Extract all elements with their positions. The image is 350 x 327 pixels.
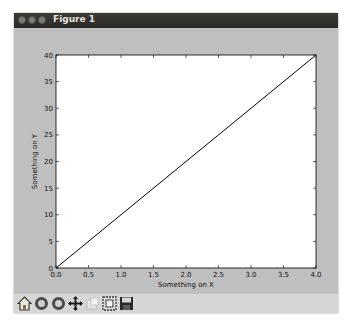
x-tick-label: 2.5 [213,271,224,279]
title-bar[interactable]: Figure 1 [14,13,338,28]
move-icon [68,296,83,311]
line-chart: 0.00.51.01.52.02.53.03.54.00510152025303… [14,28,338,293]
x-tick-label: 0.5 [83,271,94,279]
home-button[interactable] [16,295,32,311]
x-axis-label: Something on X [158,281,214,289]
save-icon [119,296,134,311]
y-axis-label: Something on Y [31,133,39,189]
configure-subplots-button[interactable] [101,295,117,311]
pan-button[interactable] [67,295,83,311]
navigation-toolbar [14,293,338,313]
minimize-button[interactable] [28,16,36,24]
x-tick-label: 1.5 [148,271,159,279]
y-tick-label: 5 [49,238,53,246]
figure-window: Figure 1 0.00.51.01.52.02.53.03.54.00510… [14,13,338,313]
close-button[interactable] [18,16,26,24]
y-tick-label: 10 [44,211,53,219]
y-tick-label: 35 [44,78,53,86]
zoom-rect-icon [85,296,100,311]
zoom-button[interactable] [84,295,100,311]
y-tick-label: 20 [44,158,53,166]
back-arrow-icon [34,296,49,311]
maximize-button[interactable] [38,16,46,24]
y-tick-label: 30 [44,105,53,113]
y-tick-label: 40 [44,52,53,60]
x-tick-label: 3.0 [245,271,256,279]
save-button[interactable] [118,295,134,311]
x-tick-label: 2.0 [180,271,191,279]
home-icon [17,296,32,311]
y-tick-label: 15 [44,185,53,193]
x-tick-label: 1.0 [115,271,126,279]
x-tick-label: 3.5 [278,271,289,279]
back-button[interactable] [33,295,49,311]
window-title: Figure 1 [53,14,95,24]
subplots-icon [102,296,117,311]
x-tick-label: 4.0 [310,271,321,279]
y-tick-label: 0 [49,265,53,273]
figure-canvas[interactable]: 0.00.51.01.52.02.53.03.54.00510152025303… [14,28,338,293]
forward-button[interactable] [50,295,66,311]
forward-arrow-icon [51,296,66,311]
y-tick-label: 25 [44,131,53,139]
